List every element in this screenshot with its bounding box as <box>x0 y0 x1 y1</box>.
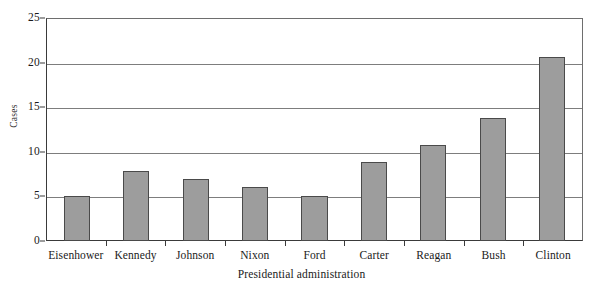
bar-slot <box>463 18 522 241</box>
bar-slot <box>106 18 165 241</box>
x-axis-tick-marks <box>46 241 583 247</box>
x-tick-label-nixon: Nixon <box>225 249 285 267</box>
bar-slot <box>47 18 106 241</box>
bar-slot <box>225 18 284 241</box>
y-tick-mark-10 <box>40 151 45 152</box>
y-tick-mark-15 <box>40 107 45 108</box>
x-tick-label-eisenhower: Eisenhower <box>46 249 106 267</box>
bar-clinton[interactable] <box>539 57 565 241</box>
bar-ford[interactable] <box>301 196 327 241</box>
y-tick-mark-5 <box>40 196 45 197</box>
bar-nixon[interactable] <box>242 187 268 241</box>
x-tick-mark-4 <box>285 241 286 246</box>
bar-chart-figure: Cases 0510152025 EisenhowerKennedyJohnso… <box>0 0 603 288</box>
x-tick-label-johnson: Johnson <box>165 249 225 267</box>
x-tick-mark-8 <box>523 241 524 246</box>
bar-reagan[interactable] <box>420 145 446 241</box>
x-tick-mark-1 <box>106 241 107 246</box>
bar-johnson[interactable] <box>183 179 209 241</box>
bar-carter[interactable] <box>361 162 387 241</box>
y-tick-mark-25 <box>40 18 45 19</box>
x-tick-mark-2 <box>165 241 166 246</box>
bar-slot <box>523 18 582 241</box>
x-tick-mark-6 <box>404 241 405 246</box>
x-tick-mark-5 <box>344 241 345 246</box>
bar-slot <box>285 18 344 241</box>
bar-slot <box>344 18 403 241</box>
y-tick-mark-0 <box>40 241 45 242</box>
x-tick-label-kennedy: Kennedy <box>106 249 166 267</box>
y-tick-mark-20 <box>40 62 45 63</box>
bar-slot <box>404 18 463 241</box>
bar-bush[interactable] <box>480 118 506 241</box>
x-tick-label-bush: Bush <box>464 249 524 267</box>
x-axis-tick-labels: EisenhowerKennedyJohnsonNixonFordCarterR… <box>46 249 583 267</box>
x-tick-mark-7 <box>464 241 465 246</box>
bar-kennedy[interactable] <box>123 171 149 241</box>
bar-series <box>46 18 583 241</box>
y-axis-tick-marks <box>0 18 47 241</box>
x-tick-label-ford: Ford <box>285 249 345 267</box>
x-tick-label-reagan: Reagan <box>404 249 464 267</box>
x-axis-title: Presidential administration <box>0 268 603 280</box>
bar-eisenhower[interactable] <box>64 196 90 241</box>
bar-slot <box>166 18 225 241</box>
x-tick-mark-3 <box>225 241 226 246</box>
x-tick-label-clinton: Clinton <box>523 249 583 267</box>
x-tick-label-carter: Carter <box>344 249 404 267</box>
